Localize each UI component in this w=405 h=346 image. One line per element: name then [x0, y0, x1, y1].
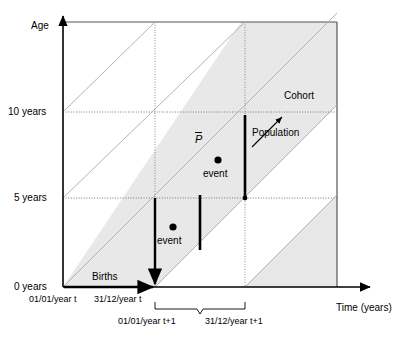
event-label-lower: event	[157, 236, 181, 246]
x-tick-label-end-year-t: 31/12/year t	[94, 295, 142, 304]
population-label: Population	[252, 128, 299, 138]
y-axis-title: Age	[31, 21, 49, 31]
year-span-brace	[155, 302, 245, 314]
event-dot-lower	[169, 223, 176, 230]
lexis-diagram: Age Time (years) 10 years 5 years 0 year…	[0, 0, 405, 346]
event-dot-upper	[214, 156, 221, 163]
population-bar-endpoint	[243, 196, 248, 201]
mean-population-label: P	[195, 134, 202, 145]
lifeline-cohort-extra-2	[63, 22, 155, 112]
births-label: Births	[92, 272, 118, 282]
y-tick-label-5-years: 5 years	[14, 193, 47, 203]
x-tick-label-start-year-t: 01/01/year t	[29, 295, 77, 304]
y-tick-label-10-years: 10 years	[8, 107, 46, 117]
mean-population-symbol: P	[195, 134, 202, 145]
x-tick-label-start-year-t1: 01/01/year t+1	[118, 317, 176, 326]
cohort-label: Cohort	[284, 91, 314, 101]
x-tick-label-end-year-t1: 31/12/year t+1	[205, 317, 263, 326]
x-axis-title: Time (years)	[336, 303, 392, 313]
y-tick-label-0-years: 0 years	[14, 282, 47, 292]
event-label-upper: event	[203, 169, 227, 179]
